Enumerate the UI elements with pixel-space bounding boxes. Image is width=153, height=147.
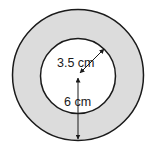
annulus-diagram: 3.5 cm 6 cm: [0, 0, 153, 147]
outer-radius-label: 6 cm: [64, 95, 91, 109]
inner-radius-label: 3.5 cm: [57, 56, 95, 70]
